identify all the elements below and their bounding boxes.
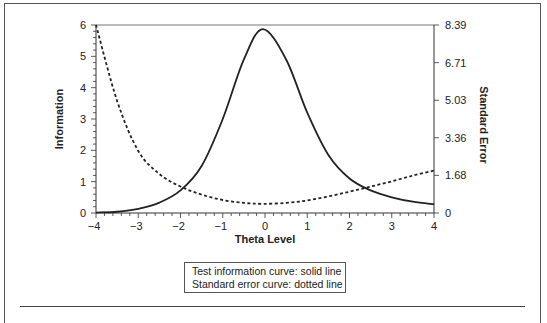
x-tick-label: −3 bbox=[130, 220, 143, 232]
y2-tick-label: 5.03 bbox=[445, 94, 466, 106]
y2-tick-label: 8.39 bbox=[445, 19, 466, 31]
x-tick-label: −4 bbox=[88, 220, 101, 232]
y-axis-title: Information bbox=[53, 88, 65, 149]
y-tick-label: 5 bbox=[80, 50, 86, 62]
y-tick-label: 1 bbox=[80, 176, 86, 188]
y2-tick-label: 3.36 bbox=[445, 132, 466, 144]
axes bbox=[96, 25, 434, 213]
information-curve bbox=[96, 29, 434, 212]
legend-solid-line: Test information curve: solid line bbox=[192, 265, 345, 278]
ticks bbox=[91, 25, 439, 218]
y2-tick-label: 6.71 bbox=[445, 57, 466, 69]
x-tick-label: 1 bbox=[304, 220, 310, 232]
y2-tick-label: 0 bbox=[445, 207, 451, 219]
x-tick-label: 4 bbox=[431, 220, 437, 232]
standard-error-curve bbox=[96, 25, 434, 204]
y2-tick-label: 1.68 bbox=[445, 169, 466, 181]
legend-dotted-line: Standard error curve: dotted line bbox=[192, 278, 345, 291]
y2-axis-title: Standard Error bbox=[478, 86, 490, 164]
y-tick-label: 6 bbox=[80, 19, 86, 31]
x-tick-label: −2 bbox=[172, 220, 185, 232]
legend: Test information curve: solid line Stand… bbox=[184, 262, 346, 293]
y-tick-label: 3 bbox=[80, 113, 86, 125]
y-tick-label: 4 bbox=[80, 82, 86, 94]
x-tick-label: 0 bbox=[262, 220, 268, 232]
y-tick-label: 2 bbox=[80, 144, 86, 156]
x-axis-title: Theta Level bbox=[235, 233, 296, 245]
y-tick-label: 0 bbox=[80, 207, 86, 219]
x-tick-label: 3 bbox=[389, 220, 395, 232]
x-tick-label: 2 bbox=[346, 220, 352, 232]
x-tick-label: −1 bbox=[214, 220, 227, 232]
